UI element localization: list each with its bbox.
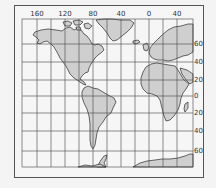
antarctica-landmass — [78, 154, 193, 167]
lat-label: 60 — [194, 147, 203, 155]
south-america-landmass — [82, 86, 116, 149]
longitude-labels: 160 120 80 40 0 40 — [30, 10, 181, 18]
north-america-landmass — [33, 27, 104, 85]
lon-label: 80 — [89, 10, 98, 18]
lon-label: 40 — [173, 10, 182, 18]
lat-label: 0 — [194, 92, 198, 100]
lat-label: 20 — [194, 109, 203, 117]
land-masses — [33, 19, 193, 167]
lon-label: 160 — [30, 10, 43, 18]
greenland-landmass — [96, 19, 134, 41]
madagascar — [184, 102, 188, 112]
lat-label: 40 — [194, 127, 203, 135]
lon-label: 0 — [147, 10, 151, 18]
lat-label: 60 — [194, 40, 203, 48]
lon-label: 40 — [117, 10, 126, 18]
lon-label: 120 — [58, 10, 71, 18]
lat-label: 20 — [194, 76, 203, 84]
europe-landmass — [149, 24, 193, 61]
latitude-labels: 60 40 20 0 20 40 60 — [194, 40, 203, 155]
world-map: 160 120 80 40 0 40 60 40 20 0 20 40 60 — [0, 0, 216, 188]
iceland — [133, 40, 140, 44]
lat-label: 40 — [194, 58, 203, 66]
